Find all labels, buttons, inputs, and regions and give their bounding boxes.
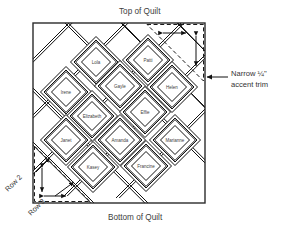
accent-trim-annotation: Narrow ¼" accent trim <box>207 69 268 89</box>
block-name-label: Kasey <box>87 165 100 170</box>
block-name-label: Patti <box>143 58 152 63</box>
block-name-label: Elizabeth <box>83 114 102 119</box>
top-of-quilt-caption: Top of Quilt <box>119 7 161 16</box>
block-name-label: Francine <box>137 164 155 169</box>
quilt-layout-diagram: Top of Quilt <box>0 0 281 234</box>
block-name-label: Marianne <box>166 138 185 143</box>
row-2-label: Row 2 <box>3 173 24 194</box>
block-name-label: Irene <box>61 90 72 95</box>
accent-trim-label-line2: accent trim <box>231 80 268 89</box>
block-name-label: Lola <box>92 60 101 65</box>
block-name-label: Gayle <box>114 84 126 89</box>
bottom-of-quilt-caption: Bottom of Quilt <box>108 213 163 222</box>
accent-trim-label-line1: Narrow ¼" <box>231 69 267 78</box>
block-name-label: Helen <box>166 85 178 90</box>
block-name-label: Amanda <box>112 138 129 143</box>
block-name-label: Effie <box>141 110 150 115</box>
block-name-label: Janet <box>60 138 72 143</box>
quilt-diagram-canvas: Top of Quilt <box>0 0 281 234</box>
